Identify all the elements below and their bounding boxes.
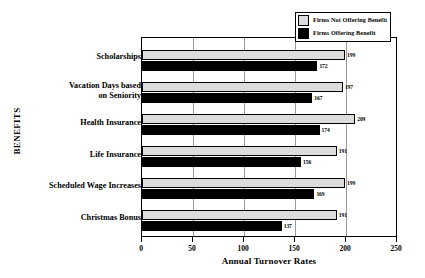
category-label-line1: Vacation Days based [3, 81, 141, 91]
bar-value-offering: 174 [322, 125, 330, 135]
x-tick-label-200: 200 [330, 244, 360, 253]
bar-rows: 199 172 197 167 209 174 191 [142, 38, 396, 236]
bar-value-offering: 137 [284, 221, 292, 231]
bar-offering [142, 61, 317, 71]
bar-not-offering [142, 114, 355, 124]
legend-label-not-offering: Firms Not Offering Benefit [313, 17, 387, 23]
legend-swatch-offering [298, 28, 309, 39]
bar-value-offering: 169 [316, 189, 324, 199]
bar-not-offering [142, 82, 343, 92]
bar-offering [142, 157, 301, 167]
legend-label-offering: Firms Offering Benefit [313, 30, 376, 36]
bar-value-not-offering: 191 [339, 210, 347, 220]
bar-value-not-offering: 199 [347, 50, 355, 60]
x-tick-label-0: 0 [126, 244, 156, 253]
bar-value-offering: 156 [303, 157, 311, 167]
category-label-life-insurance: Life Insurance [3, 150, 141, 160]
x-tick-label-50: 50 [177, 244, 207, 253]
x-tick-250 [396, 237, 397, 242]
category-label-line1: Life Insurance [3, 150, 141, 160]
x-tick-0 [141, 237, 142, 242]
category-label-line1: Health Insurance [3, 118, 141, 128]
bar-not-offering [142, 146, 337, 156]
x-tick-150 [294, 237, 295, 242]
category-label-line1: Scholarships [3, 52, 141, 62]
legend-item-not-offering: Firms Not Offering Benefit [298, 15, 387, 26]
category-label-christmas-bonus: Christmas Bonus [3, 213, 141, 223]
bar-not-offering [142, 50, 345, 60]
bar-value-offering: 167 [314, 93, 322, 103]
category-label-scheduled-wage-increases: Scheduled Wage Increases [3, 181, 141, 191]
x-tick-100 [243, 237, 244, 242]
x-tick-200 [345, 237, 346, 242]
bar-value-not-offering: 199 [347, 178, 355, 188]
category-label-line2: on Seniority [3, 91, 141, 101]
bar-offering [142, 125, 320, 135]
bar-value-offering: 172 [319, 61, 327, 71]
category-label-health-insurance: Health Insurance [3, 118, 141, 128]
legend-item-offering: Firms Offering Benefit [298, 28, 387, 39]
plot-area: 199 172 197 167 209 174 191 [141, 37, 397, 237]
category-label-line1: Scheduled Wage Increases [3, 181, 141, 191]
chart-legend: Firms Not Offering Benefit Firms Offerin… [295, 12, 391, 42]
bar-offering [142, 221, 282, 231]
category-label-scholarships: Scholarships [3, 52, 141, 62]
category-label-vacation-days: Vacation Days based on Seniority [3, 81, 141, 100]
bar-value-not-offering: 191 [339, 146, 347, 156]
legend-swatch-not-offering [298, 15, 309, 26]
x-tick-label-100: 100 [228, 244, 258, 253]
bar-chart: Firms Not Offering Benefit Firms Offerin… [0, 0, 425, 278]
bar-value-not-offering: 197 [345, 82, 353, 92]
bar-not-offering [142, 178, 345, 188]
category-label-line1: Christmas Bonus [3, 213, 141, 223]
x-tick-label-150: 150 [279, 244, 309, 253]
bar-value-not-offering: 209 [357, 114, 365, 124]
x-tick-label-250: 250 [381, 244, 411, 253]
x-tick-50 [192, 237, 193, 242]
bar-not-offering [142, 210, 337, 220]
bar-offering [142, 189, 314, 199]
bar-offering [142, 93, 312, 103]
x-axis-title: Annual Turnover Rates [141, 256, 397, 266]
